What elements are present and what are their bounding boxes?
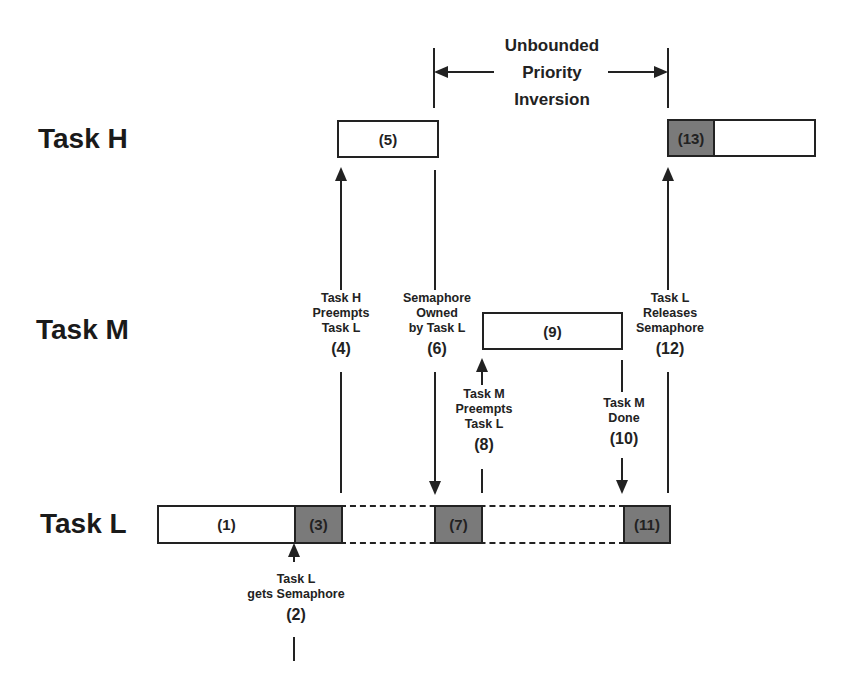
arrow-down-icon-e10 [616,480,628,494]
event-12-line-1: Task L [636,291,704,306]
event-6-number: (6) [403,340,471,358]
event-8-line-1: Task M [456,387,513,402]
arrow-down-icon-e6 [429,481,441,495]
arrow-up-icon-e2 [288,543,300,557]
event-4-annotation: Task H Preempts Task L (4) [313,291,370,358]
event-12-annotation: Task L Releases Semaphore (12) [636,291,704,358]
event-8-annotation: Task M Preempts Task L (8) [456,387,513,454]
event-2-line-2: gets Semaphore [247,587,344,602]
event-2-line-1: Task L [247,572,344,587]
event-12-line-2: Releases [636,306,704,321]
event-6-line-1: Semaphore [403,291,471,306]
event-4-number: (4) [313,340,370,358]
event-8-line-3: Task L [456,417,513,432]
event-10-line-1: Task M [603,396,644,411]
event-10-number: (10) [603,430,644,448]
arrow-up-icon-e8 [476,358,488,372]
event-6-line-3: by Task L [403,321,471,336]
inversion-left-arrowhead-icon [434,66,448,78]
event-4-line-2: Preempts [313,306,370,321]
event-2-number: (2) [247,606,344,624]
event-12-number: (12) [636,340,704,358]
event-12-line-3: Semaphore [636,321,704,336]
inversion-right-arrowhead-icon [654,66,668,78]
event-8-line-2: Preempts [456,402,513,417]
event-4-line-3: Task L [313,321,370,336]
event-10-annotation: Task M Done (10) [603,396,644,448]
event-2-annotation: Task L gets Semaphore (2) [247,572,344,624]
event-6-line-2: Owned [403,306,471,321]
event-8-number: (8) [456,436,513,454]
arrow-up-icon-e12 [662,167,674,181]
arrow-up-icon-e4 [335,167,347,181]
event-10-line-2: Done [603,411,644,426]
event-4-line-1: Task H [313,291,370,306]
event-6-annotation: Semaphore Owned by Task L (6) [403,291,471,358]
